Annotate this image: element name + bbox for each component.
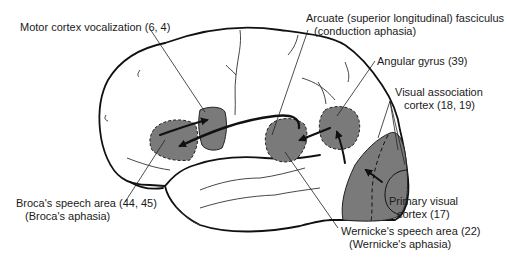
- label-broca-line1: Broca's speech area (44, 45): [16, 197, 157, 210]
- label-primary-visual: Primary visual cortex (17): [389, 195, 458, 221]
- label-broca-area: Broca's speech area (44, 45) (Broca's ap…: [16, 197, 157, 223]
- label-visual-association: Visual association cortex (18, 19): [395, 86, 483, 112]
- label-primary-visual-line2: cortex (17): [389, 208, 458, 221]
- label-arcuate-fasciculus: Arcuate (superior longitudinal) fascicul…: [306, 12, 504, 38]
- label-angular-line1: Angular gyrus (39): [377, 55, 468, 67]
- label-motor-cortex: Motor cortex vocalization (6, 4): [20, 21, 170, 34]
- label-broca-line2: (Broca's aphasia): [16, 210, 157, 223]
- brain-regions: [150, 107, 408, 222]
- label-visual-assoc-line2: cortex (18, 19): [395, 99, 483, 112]
- label-wernicke-line1: Wernicke's speech area (22): [341, 225, 480, 238]
- label-primary-visual-line1: Primary visual: [389, 195, 458, 208]
- label-motor-cortex-line1: Motor cortex vocalization (6, 4): [20, 21, 170, 33]
- label-arcuate-line2: (conduction aphasia): [306, 25, 504, 38]
- label-wernicke-line2: (Wernicke's aphasia): [341, 238, 480, 251]
- label-arcuate-line1: Arcuate (superior longitudinal) fascicul…: [306, 12, 504, 25]
- label-wernicke-area: Wernicke's speech area (22) (Wernicke's …: [341, 225, 480, 251]
- label-visual-assoc-line1: Visual association: [395, 86, 483, 99]
- label-angular-gyrus: Angular gyrus (39): [377, 55, 468, 68]
